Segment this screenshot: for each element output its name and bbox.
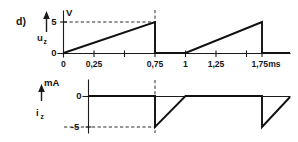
top-chart-x-tick-label-1: 1 — [183, 59, 188, 69]
bottom-chart-quantity-symbol: i — [36, 107, 39, 118]
top-chart-x-tick-label-0: 0 — [61, 59, 66, 69]
up-arrow-icon — [43, 11, 50, 19]
waveform-figure-svg: d) V 5 — [0, 0, 298, 142]
bottom-chart-signal — [89, 96, 291, 127]
top-chart-y-tick-label-0: 0 — [51, 47, 56, 58]
bottom-chart-group: mA 0 -5 i z — [36, 77, 290, 133]
top-chart-quantity-symbol: u — [37, 32, 43, 43]
top-chart-x-tick-label-025: 0,25 — [86, 59, 103, 69]
top-chart-quantity-subscript: z — [44, 38, 48, 45]
top-chart-group: V 5 0 0 0,25 0,75 1 1,25 1,75ms u z — [37, 7, 290, 69]
bottom-chart-y-tick-label-0: 0 — [76, 90, 81, 101]
part-label: d) — [16, 15, 26, 27]
bottom-chart-y-tick-label-neg5: -5 — [71, 121, 80, 132]
top-chart-y-tick-label-5: 5 — [51, 16, 57, 27]
figure-container: d) V 5 — [0, 0, 298, 142]
top-chart-x-tick-label-125: 1,25 — [208, 59, 225, 69]
top-chart-x-tick-label-075: 0,75 — [147, 59, 164, 69]
top-chart-signal — [64, 22, 291, 53]
bottom-chart-quantity-subscript: z — [41, 113, 45, 120]
bottom-chart-y-unit-label: mA — [44, 77, 60, 88]
top-chart-x-tick-label-175: 1,75ms — [251, 59, 280, 69]
top-chart-y-unit-label: V — [66, 7, 73, 18]
